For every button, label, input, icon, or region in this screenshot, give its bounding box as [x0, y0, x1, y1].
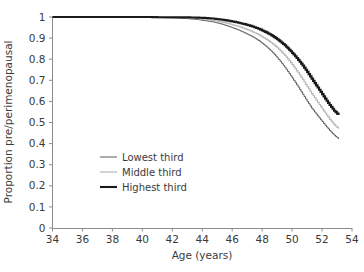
y-tick-label: 0.5 — [29, 116, 46, 128]
x-tick-label: 52 — [315, 233, 328, 245]
x-tick-label: 42 — [166, 233, 179, 245]
y-tick-label: 0.4 — [29, 137, 46, 149]
survival-curve-chart: 00.10.20.30.40.50.60.70.80.91 3436384042… — [0, 0, 364, 272]
x-tick-label: 50 — [285, 233, 298, 245]
y-axis-title: Proportion pre/perimenopausal — [2, 41, 14, 204]
chart-background — [0, 0, 364, 272]
x-tick-label: 36 — [76, 233, 90, 245]
x-tick-label: 44 — [196, 233, 210, 245]
y-tick-label: 0.9 — [29, 32, 46, 44]
y-tick-label: 0.8 — [29, 53, 46, 65]
legend-label-highest-third: Highest third — [122, 182, 187, 193]
chart-canvas: 00.10.20.30.40.50.60.70.80.91 3436384042… — [0, 0, 364, 272]
y-tick-label: 0.6 — [29, 95, 46, 107]
x-tick-label: 38 — [106, 233, 119, 245]
x-tick-label: 46 — [226, 233, 240, 245]
legend-label-lowest-third: Lowest third — [122, 152, 183, 163]
x-tick-label: 40 — [136, 233, 149, 245]
y-tick-label: 0 — [39, 222, 46, 234]
y-tick-label: 0.1 — [29, 201, 46, 213]
x-axis-title: Age (years) — [172, 249, 233, 261]
legend-label-middle-third: Middle third — [122, 167, 182, 178]
x-tick-label: 48 — [255, 233, 268, 245]
x-tick-label: 34 — [46, 233, 60, 245]
y-tick-label: 1 — [39, 11, 46, 23]
y-tick-label: 0.7 — [29, 74, 46, 86]
y-tick-label: 0.2 — [29, 179, 46, 191]
x-tick-label: 54 — [345, 233, 359, 245]
y-tick-label: 0.3 — [29, 158, 46, 170]
